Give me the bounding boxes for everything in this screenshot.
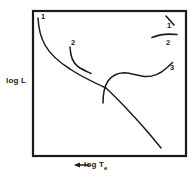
y-axis-label: log L [6, 76, 26, 85]
x-axis-label-main: log T [84, 160, 104, 169]
x-axis-label-subscript: e [104, 165, 108, 171]
legend-swatch-2 [152, 34, 177, 37]
evolutionary-track-2 [71, 54, 91, 74]
evolutionary-track-3 [103, 63, 173, 104]
figure-container: log L log Te 1 2 3 1 2 [0, 0, 196, 177]
curve-label-2: 2 [71, 39, 75, 47]
curve-label-3: 3 [170, 64, 174, 72]
legend-label-1: 1 [167, 22, 171, 30]
x-axis-label: log Te [84, 160, 108, 171]
x-axis-label-group: log Te [84, 160, 108, 171]
track-2-tick-mark [70, 47, 71, 54]
curve-label-1: 1 [41, 13, 45, 21]
plot-frame [33, 11, 186, 156]
evolutionary-track-1 [38, 18, 161, 148]
legend-label-2: 2 [166, 39, 170, 47]
